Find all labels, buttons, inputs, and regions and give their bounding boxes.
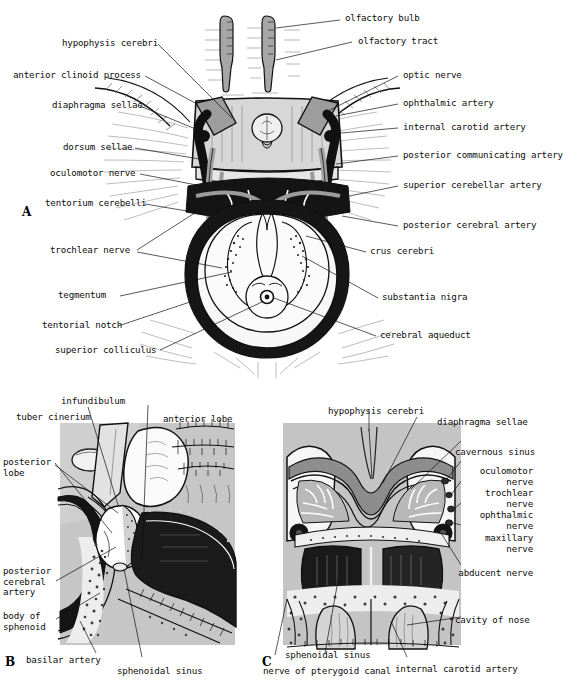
label-diaphragma-sellae-c: diaphragma sellae [437, 417, 528, 428]
ophthalmic-nerve-section [448, 506, 455, 512]
panel-b-illustration [0, 385, 250, 682]
olfactory-structures [205, 16, 300, 104]
label-tegmentum: tegmentum [58, 290, 106, 301]
label-dorsum-sellae: dorsum sellae [63, 142, 132, 153]
label-anterior-lobe: anterior lobe [163, 414, 232, 425]
label-abducent-nerve: abducent nerve [455, 568, 533, 579]
label-infundibulum: infundibulum [61, 396, 125, 407]
panel-letter-a: A [22, 205, 31, 219]
sella-turcica-region [192, 97, 342, 184]
label-cerebral-aqueduct: cerebral aqueduct [380, 330, 471, 341]
label-ophthalmic-nerve: ophthalmic nerve [455, 510, 533, 531]
label-cavity-of-nose: cavity of nose [455, 615, 530, 626]
label-maxillary-nerve: maxillary nerve [455, 533, 533, 554]
label-posterior-lobe: posterior lobe [3, 457, 65, 478]
label-trochlear-nerve-a: trochlear nerve [50, 245, 130, 256]
label-nerve-of-pterygoid-canal: nerve of pterygoid canal [263, 666, 391, 677]
label-oculomotor-nerve-c: oculomotor nerve [455, 466, 533, 487]
label-anterior-clinoid-process: anterior clinoid process [13, 70, 141, 81]
label-ophthalmic-artery: ophthalmic artery [403, 98, 494, 109]
label-cavernous-sinus: cavernous sinus [455, 447, 535, 458]
label-sphenoidal-sinus-c: sphenoidal sinus [285, 650, 370, 661]
label-posterior-cerebral-artery-a: posterior cerebral artery [403, 220, 536, 231]
label-optic-nerve: optic nerve [403, 70, 462, 81]
label-hypophysis-cerebri-c: hypophysis cerebri [328, 406, 424, 417]
label-substantia-nigra: substantia nigra [382, 292, 467, 303]
label-body-of-sphenoid: body of sphenoid [3, 611, 65, 632]
label-oculomotor-nerve-a: oculomotor nerve [50, 168, 135, 179]
label-posterior-cerebral-artery-b: posterior cerebral artery [3, 566, 65, 598]
label-olfactory-bulb: olfactory bulb [345, 13, 420, 24]
label-posterior-communicating-artery: posterior communicating artery [403, 150, 563, 161]
label-diaphragma-sellae-a: diaphragma sellae [52, 100, 143, 111]
label-sphenoidal-sinus-b: sphenoidal sinus [117, 666, 202, 677]
panel-letter-b: B [5, 655, 15, 669]
label-internal-carotid-artery-c: internal carotid artery [395, 664, 518, 675]
label-hypophysis-cerebri-a: hypophysis cerebri [62, 38, 158, 49]
label-tentorial-notch: tentorial notch [42, 320, 122, 331]
label-basilar-artery: basilar artery [26, 655, 101, 666]
label-superior-cerebellar-artery: superior cerebellar artery [403, 180, 542, 191]
label-olfactory-tract: olfactory tract [358, 36, 438, 47]
label-crus-cerebri: crus cerebri [370, 246, 434, 257]
label-superior-colliculus: superior colliculus [55, 345, 156, 356]
label-tuber-cinerium: tuber cinerium [16, 412, 91, 423]
label-tentorium-cerebelli: tentorium cerebelli [45, 198, 146, 209]
label-internal-carotid-artery-a: internal carotid artery [403, 122, 526, 133]
label-trochlear-nerve-c: trochlear nerve [455, 488, 533, 509]
